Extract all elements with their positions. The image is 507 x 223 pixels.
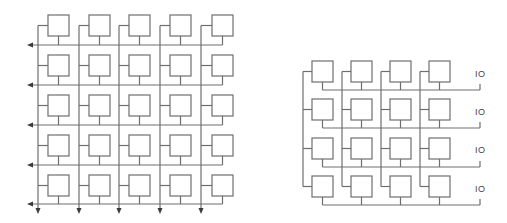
io-label: IO	[475, 184, 486, 194]
logic-block	[170, 95, 191, 116]
logic-block	[312, 61, 333, 82]
logic-block	[351, 61, 372, 82]
logic-block	[170, 175, 191, 196]
arrow-left-icon	[27, 202, 33, 207]
logic-block	[48, 135, 69, 156]
logic-block	[212, 175, 233, 196]
logic-block	[312, 176, 333, 197]
left-grid-5x5	[27, 15, 233, 214]
logic-block	[390, 61, 411, 82]
logic-block	[351, 176, 372, 197]
logic-block	[212, 95, 233, 116]
arrow-left-icon	[27, 163, 33, 168]
arrow-down-icon	[158, 208, 163, 214]
logic-block	[312, 99, 333, 120]
logic-block	[390, 138, 411, 159]
interconnect-diagram	[0, 0, 507, 223]
logic-block	[429, 176, 450, 197]
logic-block	[429, 138, 450, 159]
io-label: IO	[475, 69, 486, 79]
logic-block	[170, 55, 191, 76]
io-label: IO	[475, 145, 486, 155]
arrow-down-icon	[199, 208, 204, 214]
logic-block	[89, 15, 110, 36]
logic-block	[48, 95, 69, 116]
logic-block	[212, 55, 233, 76]
logic-block	[89, 95, 110, 116]
logic-block	[129, 135, 150, 156]
logic-block	[312, 138, 333, 159]
logic-block	[429, 61, 450, 82]
arrow-left-icon	[27, 83, 33, 88]
right-grid-4x4	[303, 61, 480, 205]
logic-block	[89, 175, 110, 196]
logic-block	[48, 55, 69, 76]
logic-block	[170, 135, 191, 156]
arrow-down-icon	[117, 208, 122, 214]
arrow-down-icon	[77, 208, 82, 214]
logic-block	[129, 95, 150, 116]
logic-block	[429, 99, 450, 120]
logic-block	[212, 135, 233, 156]
logic-block	[129, 15, 150, 36]
arrow-left-icon	[27, 123, 33, 128]
logic-block	[89, 55, 110, 76]
logic-block	[48, 175, 69, 196]
logic-block	[390, 99, 411, 120]
logic-block	[129, 55, 150, 76]
logic-block	[129, 175, 150, 196]
io-label: IO	[475, 107, 486, 117]
arrow-down-icon	[36, 208, 41, 214]
arrow-left-icon	[27, 43, 33, 48]
logic-block	[351, 138, 372, 159]
logic-block	[170, 15, 191, 36]
logic-block	[212, 15, 233, 36]
logic-block	[390, 176, 411, 197]
logic-block	[48, 15, 69, 36]
diagram-canvas: IOIOIOIO	[0, 0, 507, 223]
logic-block	[351, 99, 372, 120]
logic-block	[89, 135, 110, 156]
